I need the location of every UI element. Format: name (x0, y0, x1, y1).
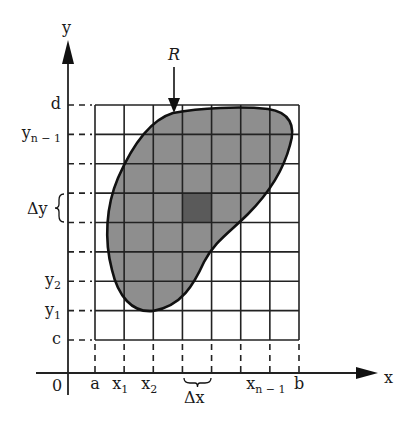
delta-x-brace (184, 378, 211, 387)
x-tick-label: xn − 1 (246, 374, 285, 396)
y-axis-label: y (61, 18, 71, 37)
x-tick-label: a (90, 374, 100, 393)
highlighted-cell (182, 193, 211, 222)
y-axis-arrow-icon (62, 40, 74, 64)
y-tick-label: y2 (44, 270, 61, 292)
x-tick-label: x2 (141, 374, 157, 396)
x-tick-label: x1 (112, 374, 128, 396)
y-tick-label: d (51, 94, 61, 113)
y-tick-labels: cy1y2yn − 1d (21, 94, 61, 348)
x-tick-label: b (294, 374, 304, 393)
diagram-canvas: y x 0 R ax1x2xn − 1b cy1y2yn − 1d Δx Δy (0, 0, 416, 421)
delta-y-label: Δy (27, 199, 48, 218)
x-axis-label: x (384, 368, 393, 387)
delta-y-brace (55, 194, 64, 222)
y-tick-label: y1 (44, 300, 61, 322)
delta-x-label: Δx (184, 388, 205, 407)
origin-label: 0 (52, 376, 62, 395)
y-tick-label: yn − 1 (21, 123, 61, 145)
x-axis-arrow-icon (356, 367, 378, 379)
y-tick-label: c (52, 329, 61, 348)
region-label: R (167, 45, 180, 64)
